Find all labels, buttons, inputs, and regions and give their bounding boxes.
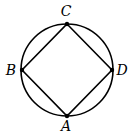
vertex-D — [110, 68, 114, 72]
vertex-C — [65, 22, 69, 26]
label-C: C — [61, 3, 72, 19]
label-D: D — [115, 62, 127, 78]
circle — [21, 24, 113, 116]
vertex-points — [20, 22, 114, 118]
vertex-B — [20, 68, 24, 72]
square-ABCD — [22, 24, 112, 116]
label-A: A — [59, 118, 71, 134]
label-B: B — [5, 62, 16, 78]
inscribed-square-diagram: C D A B — [0, 0, 130, 134]
